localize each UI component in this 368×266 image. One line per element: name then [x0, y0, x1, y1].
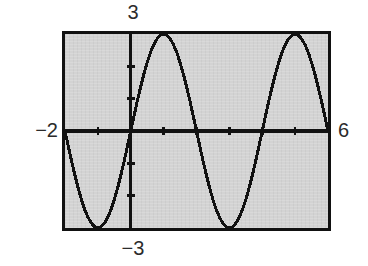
calculator-screen [62, 31, 331, 231]
y-axis-min-label: −3 [103, 238, 163, 258]
x-axis-min-label: −2 [14, 120, 58, 140]
plot-canvas [62, 31, 331, 231]
calculator-graph-figure: 3 −3 −2 6 [0, 0, 368, 266]
y-axis-max-label: 3 [111, 2, 155, 22]
x-axis-max-label: 6 [338, 120, 364, 140]
